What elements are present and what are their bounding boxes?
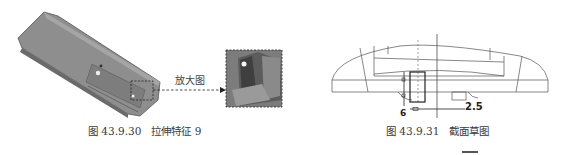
arrow-icon [220, 87, 226, 93]
figure-extrude-feature: 放大图 图 43.9.30拉伸特征 9 [0, 0, 290, 140]
figure-caption-right: 图 43.9.31截面草图 [386, 123, 489, 138]
caption-number: 图 43.9.30 [88, 125, 141, 137]
dimension-value-6: 6 [400, 108, 406, 118]
zoom-callout-label: 放大图 [175, 72, 205, 87]
figure-section-sketch: 2.5 6 图 43.9.31截面草图 [290, 0, 566, 155]
dimension-value-2-5: 2.5 [465, 101, 483, 112]
figure-caption-left: 图 43.9.30拉伸特征 9 [88, 123, 201, 138]
caption-title: 拉伸特征 9 [151, 125, 201, 137]
sketch-drawing [290, 0, 566, 125]
part-3d-render [0, 0, 290, 140]
caption-number: 图 43.9.31 [386, 125, 439, 137]
sketch-rectangle [410, 72, 425, 102]
zoomed-detail-inset [226, 50, 282, 107]
cropped-text-fragment [462, 151, 478, 153]
caption-title: 截面草图 [449, 125, 489, 137]
